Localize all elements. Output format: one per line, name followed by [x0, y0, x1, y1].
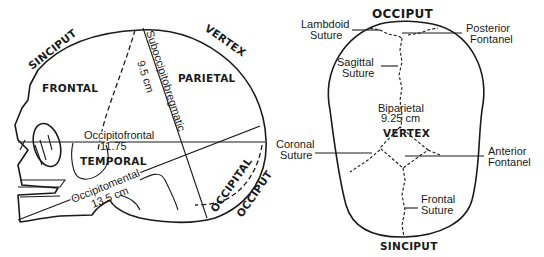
- label-occiput-superior: OCCIPUT: [372, 7, 434, 21]
- label-vertex-superior: VERTEX: [383, 127, 430, 139]
- label-biparietal-2: 9.25 cm: [381, 112, 420, 124]
- label-sinciput-lateral: SINCIPUT: [26, 26, 79, 71]
- label-frontal: FRONTAL: [42, 82, 98, 94]
- label-coronal-2: Suture: [280, 149, 312, 161]
- orbit-detail: [35, 135, 52, 165]
- label-temporal: TEMPORAL: [80, 155, 147, 167]
- label-sagittal-2: Suture: [342, 67, 374, 79]
- label-parietal: PARIETAL: [178, 72, 236, 84]
- label-sinciput-superior: SINCIPUT: [380, 240, 438, 252]
- label-occipitofrontal-value: 11.75: [100, 140, 127, 152]
- label-frontal-suture-2: Suture: [421, 204, 453, 216]
- label-posterior-2: Fontanel: [470, 33, 513, 45]
- label-suboccipitobregmatic-value: 9.5 cm: [135, 59, 157, 94]
- frontal-suture: [402, 168, 405, 237]
- label-anterior-2: Fontanel: [488, 156, 531, 168]
- fetal-skull-diagram: SINCIPUT VERTEX FRONTAL PARIETAL TEMPORA…: [0, 0, 544, 257]
- label-lambdoid-2: Suture: [310, 29, 342, 41]
- lateral-skull-view: SINCIPUT VERTEX FRONTAL PARIETAL TEMPORA…: [15, 22, 275, 222]
- orbit: [29, 120, 66, 169]
- label-vertex-lateral: VERTEX: [203, 22, 249, 59]
- superior-skull-view: OCCIPUT VERTEX SINCIPUT Lambdoid Suture …: [276, 7, 531, 252]
